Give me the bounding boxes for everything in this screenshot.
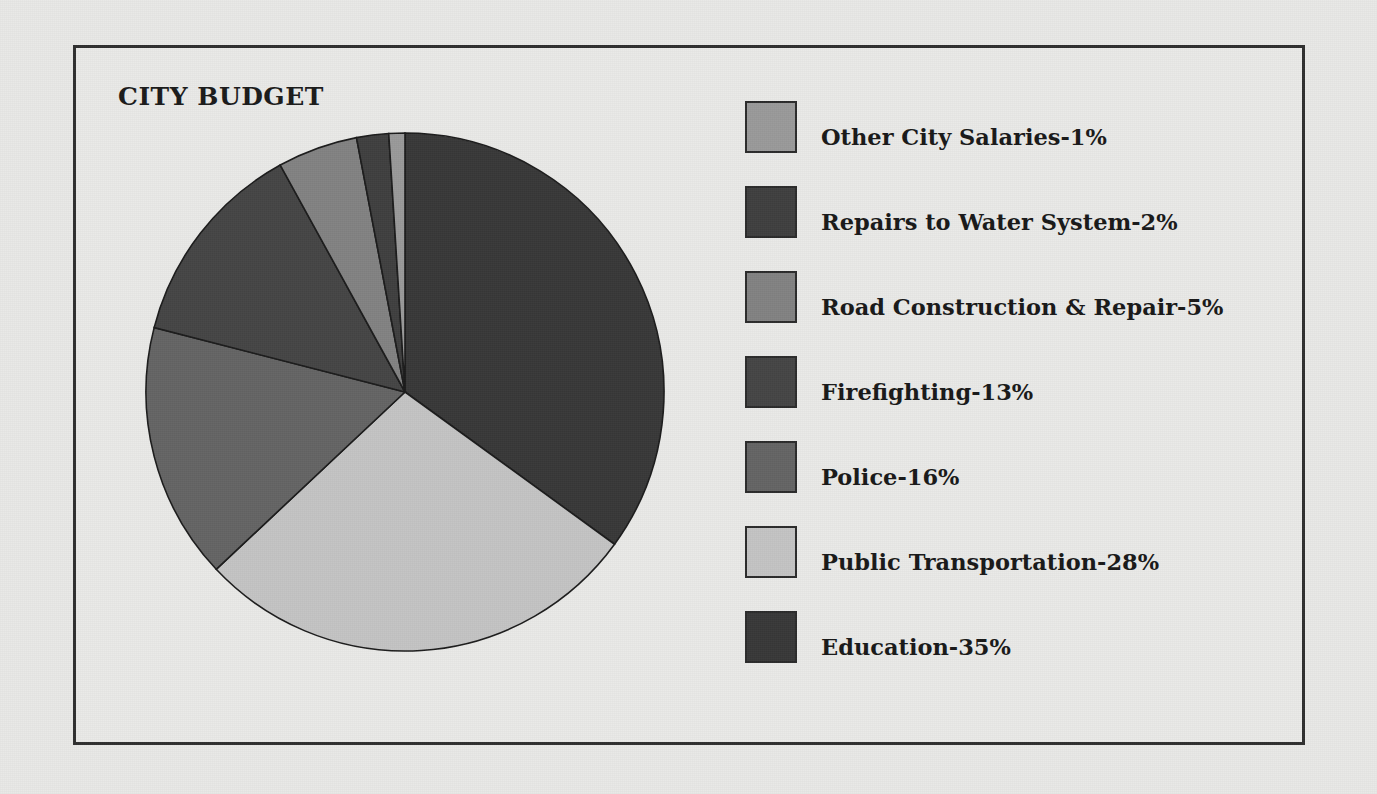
legend-item[interactable]: Firefighting-13%: [745, 339, 1285, 424]
chart-legend: Other City Salaries-1%Repairs to Water S…: [745, 84, 1285, 679]
legend-item[interactable]: Public Transportation-28%: [745, 509, 1285, 594]
legend-swatch-icon: [745, 611, 797, 663]
page-title: CITY BUDGET: [118, 82, 324, 111]
legend-swatch-icon: [745, 186, 797, 238]
legend-swatch-icon: [745, 101, 797, 153]
legend-item-label: Other City Salaries-1%: [821, 126, 1107, 149]
legend-item[interactable]: Other City Salaries-1%: [745, 84, 1285, 169]
legend-swatch-icon: [745, 441, 797, 493]
legend-item-label: Firefighting-13%: [821, 381, 1033, 404]
legend-swatch-icon: [745, 356, 797, 408]
pie-chart-svg: [143, 130, 667, 654]
legend-item-label: Repairs to Water System-2%: [821, 211, 1178, 234]
legend-item-label: Road Construction & Repair-5%: [821, 296, 1223, 319]
legend-item[interactable]: Police-16%: [745, 424, 1285, 509]
pie-slice-group: [146, 133, 664, 651]
legend-swatch-icon: [745, 526, 797, 578]
legend-item[interactable]: Repairs to Water System-2%: [745, 169, 1285, 254]
legend-item-label: Public Transportation-28%: [821, 551, 1159, 574]
legend-item-label: Police-16%: [821, 466, 959, 489]
legend-item[interactable]: Road Construction & Repair-5%: [745, 254, 1285, 339]
legend-item-label: Education-35%: [821, 636, 1011, 659]
legend-swatch-icon: [745, 271, 797, 323]
legend-item[interactable]: Education-35%: [745, 594, 1285, 679]
pie-chart: [143, 130, 667, 654]
